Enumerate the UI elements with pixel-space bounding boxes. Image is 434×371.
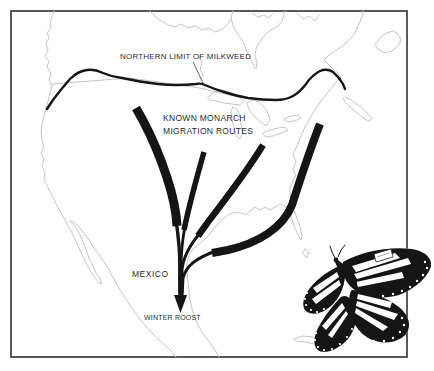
migration-route-east: [212, 124, 320, 253]
lake-ontario-outline: [284, 115, 301, 122]
butterfly-antennae: [330, 245, 345, 258]
arctic-island-outline: [252, 13, 273, 18]
routes-label-line1: KNOWN MONARCH: [163, 113, 246, 123]
lake-huron-outline: [247, 100, 270, 126]
mexico-label: MEXICO: [132, 269, 169, 279]
arctic-island-outline: [297, 13, 319, 21]
routes-label-line2: MIGRATION ROUTES: [163, 126, 253, 136]
nova-scotia-outline: [343, 97, 372, 121]
milkweed-limit: [47, 62, 345, 109]
migration-route-midwest: [198, 145, 263, 236]
milkweed-limit-line: [47, 70, 345, 109]
newfoundland-outline: [376, 31, 401, 53]
migration-route-central: [184, 152, 204, 230]
lake-erie-outline: [263, 127, 288, 137]
bahamas-outline: [303, 249, 309, 258]
west-coast-outline: [41, 11, 176, 357]
winter-roost-arrow-stem: [180, 258, 181, 299]
figure-canvas: NORTHERN LIMIT OF MILKWEED KNOWN MONARCH…: [0, 0, 434, 371]
monarch-butterfly-icon: [303, 245, 431, 352]
winter-roost-label: WINTER ROOST: [144, 314, 201, 321]
arctic-coast-outline: [150, 11, 231, 32]
winter-roost-arrowhead-icon: [174, 295, 187, 313]
butterfly-head: [334, 258, 339, 263]
migration-map-svg: NORTHERN LIMIT OF MILKWEED KNOWN MONARCH…: [0, 0, 434, 371]
northern-limit-label: NORTHERN LIMIT OF MILKWEED: [120, 52, 251, 61]
